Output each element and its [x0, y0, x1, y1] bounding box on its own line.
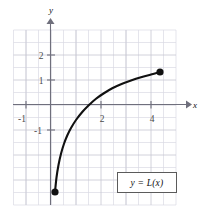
y-tick-label-1: 1	[39, 76, 44, 86]
x-tick-label-neg1: -1	[18, 114, 26, 124]
y-tick-label-neg1: -1	[34, 126, 42, 136]
x-axis-label: x	[192, 100, 197, 110]
legend-box: y = L(x)	[117, 172, 177, 193]
legend-label: y = L(x)	[131, 178, 164, 188]
x-tick-label-2: 2	[100, 114, 105, 124]
left-endpoint-dot	[51, 188, 58, 195]
y-axis-arrow	[47, 18, 55, 24]
x-tick-label-4: 4	[150, 114, 155, 124]
right-endpoint-dot	[156, 68, 163, 75]
y-tick-label-2: 2	[39, 51, 44, 61]
x-axis-arrow	[186, 101, 192, 109]
graph-figure: x y -1 2 4 2 1 -1 y = L(x)	[0, 0, 206, 212]
y-axis-label: y	[48, 5, 53, 15]
